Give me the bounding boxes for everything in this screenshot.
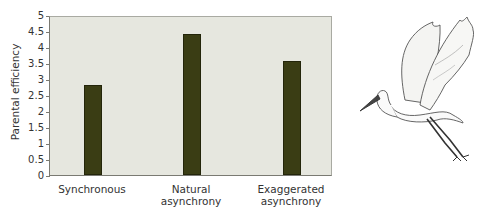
x-tick-label: Naturalasynchrony [141,183,241,207]
bar-natural-asynchrony [183,34,201,175]
bar-synchronous [84,85,102,175]
y-tick-label: 4 [26,43,44,53]
plot-area [49,16,332,176]
y-tick-label: 3.5 [26,59,44,69]
y-tick-mark [46,176,50,177]
bar-chart: Parental efficiency 00.511.522.533.544.5… [0,0,340,217]
y-axis-label: Parental efficiency [9,37,21,147]
y-tick-label: 1 [26,139,44,149]
y-tick-label: 5 [26,11,44,21]
x-tick-label: Synchronous [42,183,142,195]
y-tick-label: 2.5 [26,91,44,101]
x-tick-label: Exaggeratedasynchrony [241,183,341,207]
y-tick-label: 2 [26,107,44,117]
y-tick-label: 3 [26,75,44,85]
y-tick-label: 4.5 [26,27,44,37]
y-tick-label: 0.5 [26,155,44,165]
egret-illustration [345,5,485,165]
bar-exaggerated-asynchrony [283,61,301,175]
y-tick-label: 0 [26,171,44,181]
y-tick-label: 1.5 [26,123,44,133]
